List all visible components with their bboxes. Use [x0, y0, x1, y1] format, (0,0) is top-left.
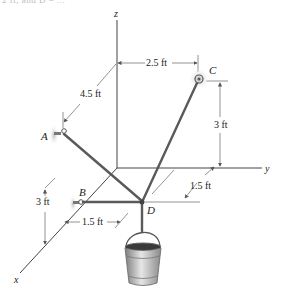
dim-1-5ft-D: 1.5 ft	[190, 180, 211, 191]
cables	[64, 83, 197, 231]
dim-3ft-C: 3 ft	[214, 119, 228, 130]
statics-diagram: z y x 2.5 ft 4.5 ft 3 ft 3 ft	[0, 0, 289, 293]
dim-1-5ft-B: 1.5 ft	[82, 216, 103, 227]
x-axis-label: x	[13, 274, 19, 285]
bucket	[125, 232, 161, 285]
label-D: D	[146, 204, 155, 216]
label-C: C	[209, 64, 217, 76]
support-A-hook	[62, 129, 67, 134]
y-axis-label: y	[264, 163, 270, 174]
joint-D	[140, 200, 145, 205]
label-B: B	[79, 186, 86, 198]
dim-3ft-A: 3 ft	[36, 196, 50, 207]
point-labels: A B C D	[40, 64, 217, 216]
dim-2-5ft: 2.5 ft	[146, 57, 167, 68]
z-axis-label: z	[113, 8, 118, 19]
label-A: A	[40, 130, 48, 142]
cable-CD	[143, 83, 197, 200]
dim-4-5ft: 4.5 ft	[80, 88, 101, 99]
